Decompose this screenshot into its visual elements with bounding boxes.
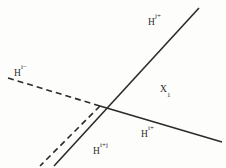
label-hi-minus-base: H bbox=[14, 68, 21, 78]
hyperplane-arrangement-diagram: Hj+ Hi− X1 Hi+ Hi+j bbox=[0, 0, 226, 168]
label-x1-subscript: 1 bbox=[167, 91, 171, 99]
label-hj-plus-base: H bbox=[148, 17, 155, 27]
hyperplane-hi-plus-solid bbox=[100, 106, 222, 142]
label-hi-plus-j-superscript: i+j bbox=[100, 141, 108, 149]
label-hi-plus-base: H bbox=[141, 129, 148, 139]
label-hyperplane-hi-plus-j: Hi+j bbox=[93, 147, 108, 157]
label-hi-minus-superscript: i− bbox=[21, 63, 27, 71]
label-x1-base: X bbox=[160, 84, 167, 94]
label-hj-plus-superscript: j+ bbox=[155, 12, 161, 20]
hyperplane-hi-plus-j-dashed bbox=[40, 106, 100, 166]
label-hi-plus-superscript: i+ bbox=[148, 124, 154, 132]
diagram-lines-layer bbox=[0, 0, 226, 168]
label-hyperplane-hi-minus: Hi− bbox=[14, 69, 27, 79]
label-region-x1: X1 bbox=[160, 85, 171, 95]
hyperplane-hj-plus-solid bbox=[54, 8, 199, 166]
label-hyperplane-hi-plus: Hi+ bbox=[141, 130, 154, 140]
label-hyperplane-hj-plus: Hj+ bbox=[148, 18, 161, 28]
label-hi-plus-j-base: H bbox=[93, 146, 100, 156]
hyperplane-hi-minus-dashed bbox=[8, 78, 100, 106]
